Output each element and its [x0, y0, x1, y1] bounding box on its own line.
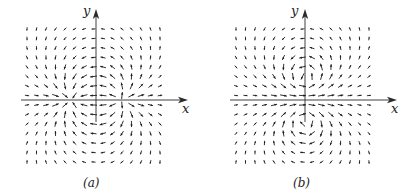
field-arrows — [234, 28, 370, 164]
caption-b: (b) — [293, 176, 310, 190]
panel-b: y x (b) — [0, 0, 415, 196]
vector-field-b — [0, 0, 415, 196]
x-axis-label-b: x — [391, 101, 398, 116]
y-axis-label-b: y — [291, 3, 298, 18]
